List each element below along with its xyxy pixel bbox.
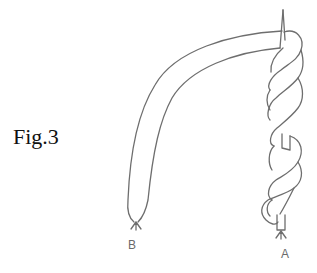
curved-strand-b [128, 31, 282, 230]
figure-canvas: Fig.3 [0, 0, 317, 273]
twisted-spiral-a [262, 31, 303, 239]
point-label-b: B [128, 239, 136, 251]
needle-rod [277, 10, 285, 230]
twisted-strand-drawing [0, 0, 317, 273]
point-label-a: A [281, 248, 289, 260]
